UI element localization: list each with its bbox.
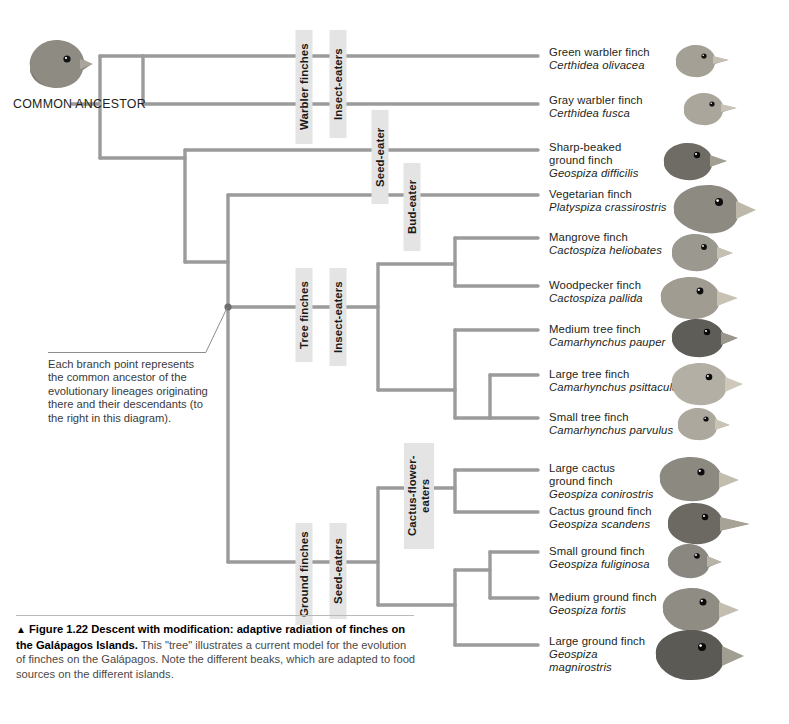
species-label-gray-warbler-finch: Gray warbler finchCerthidea fusca — [549, 94, 643, 120]
figure-caption: ▲ Figure 1.22 Descent with modification:… — [16, 622, 416, 681]
species-label-medium-ground-finch: Medium ground finchGeospiza fortis — [549, 591, 657, 617]
bird-icon-sharp-beaked-ground-finch — [656, 138, 728, 184]
annotation-text: Each branch point represents the common … — [48, 358, 208, 425]
caption-rule — [16, 615, 414, 616]
species-label-mangrove-finch: Mangrove finchCactospiza heliobates — [549, 231, 662, 257]
clade-label-ground-finches: Ground finches — [296, 523, 313, 625]
species-label-sharp-beaked-ground-finch: Sharp-beaked ground finchGeospiza diffic… — [549, 141, 638, 181]
clade-label-warbler-finches: Warbler finches — [296, 30, 313, 144]
species-label-small-tree-finch: Small tree finchCamarhynchus parvulus — [549, 411, 673, 437]
clade-label-seed-eaters: Seed-eaters — [330, 523, 347, 619]
clade-label-tree-finches: Tree finches — [296, 268, 313, 362]
clade-label-seed-eater: Seed-eater — [372, 110, 389, 204]
species-label-green-warbler-finch: Green warbler finchCerthidea olivacea — [549, 46, 650, 72]
branch-point-dot — [224, 303, 231, 310]
bird-icon-medium-tree-finch — [664, 314, 740, 360]
common-ancestor-bird-icon — [20, 32, 94, 94]
annotation-leader-line — [206, 308, 227, 352]
bird-icon-large-ground-finch — [648, 625, 746, 683]
common-ancestor-label: COMMON ANCESTOR — [13, 97, 146, 111]
figure-canvas: COMMON ANCESTOR Warbler finches Insect-e… — [0, 0, 789, 724]
bird-icon-small-tree-finch — [670, 404, 732, 444]
species-label-woodpecker-finch: Woodpecker finchCactospiza pallida — [549, 279, 643, 305]
bird-icon-large-cactus-ground-finch — [652, 452, 740, 504]
bird-icon-mangrove-finch — [664, 230, 734, 274]
clade-label-insect-eaters-top: Insect-eaters — [330, 30, 347, 138]
species-label-medium-tree-finch: Medium tree finchCamarhynchus pauper — [549, 323, 665, 349]
annotation-rule — [48, 352, 206, 353]
species-label-cactus-ground-finch: Cactus ground finchGeospiza scandens — [549, 505, 652, 531]
clade-label-cactus-flower-eaters: Cactus-flower- eaters — [404, 443, 434, 549]
bird-icon-green-warbler-finch — [668, 40, 730, 82]
bird-icon-large-tree-finch — [664, 358, 744, 408]
clade-label-bud-eater: Bud-eater — [404, 163, 421, 251]
bird-icon-small-ground-finch — [660, 540, 724, 582]
species-label-large-cactus-ground-finch: Large cactus ground finchGeospiza coniro… — [549, 462, 654, 502]
species-label-vegetarian-finch: Vegetarian finchPlatyspiza crassirostris — [549, 188, 667, 214]
caption-triangle-icon: ▲ — [16, 624, 26, 635]
species-label-large-tree-finch: Large tree finchCamarhynchus psittacula — [549, 368, 678, 394]
bird-icon-gray-warbler-finch — [676, 88, 738, 130]
clade-label-insect-eaters-tree: Insect-eaters — [330, 268, 347, 366]
species-label-large-ground-finch: Large ground finchGeospiza magnirostris — [549, 635, 645, 675]
species-label-small-ground-finch: Small ground finchGeospiza fuliginosa — [549, 545, 650, 571]
